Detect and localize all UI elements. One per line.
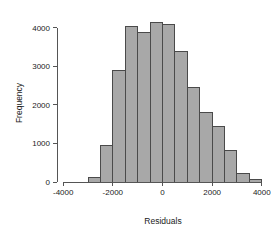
histogram-bar: [200, 113, 212, 182]
x-tick-label: 0: [160, 188, 165, 197]
x-axis-title: Residuals: [144, 216, 181, 226]
histogram-bar: [212, 126, 224, 182]
y-axis-title: Frequency: [14, 82, 24, 123]
y-tick-label: 1000: [32, 139, 50, 148]
histogram-bar: [225, 151, 237, 182]
y-tick-label: 4000: [32, 24, 50, 33]
x-tick-label: -4000: [53, 188, 74, 197]
y-tick-label: 3000: [32, 62, 50, 71]
x-tick-label: -2000: [103, 188, 124, 197]
histogram-bar: [113, 70, 125, 182]
y-tick-label: 2000: [32, 101, 50, 110]
histogram-bar: [100, 145, 112, 182]
y-tick-label: 0: [46, 178, 51, 187]
histogram-bar: [125, 27, 137, 182]
histogram-bar: [175, 51, 187, 182]
histogram-bar: [138, 32, 150, 182]
histogram-svg: 01000200030004000 -4000-2000020004000 Re…: [0, 0, 277, 229]
histogram-bar: [88, 178, 100, 182]
x-tick-label: 2000: [203, 188, 221, 197]
histogram-bar: [163, 24, 175, 182]
x-tick-label: 4000: [253, 188, 271, 197]
histogram-bar: [237, 173, 249, 182]
histogram-bar: [150, 22, 162, 182]
histogram-chart: 01000200030004000 -4000-2000020004000 Re…: [0, 0, 277, 229]
histogram-bar: [187, 87, 199, 182]
